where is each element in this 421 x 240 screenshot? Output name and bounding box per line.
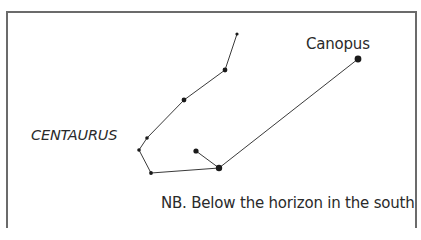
star-icon bbox=[223, 68, 228, 73]
star-icon bbox=[235, 32, 238, 35]
constellation-lines bbox=[139, 34, 358, 173]
star-icon bbox=[149, 171, 153, 175]
constellation-line bbox=[139, 150, 151, 173]
canopus-label: Canopus bbox=[306, 35, 370, 53]
constellation-line bbox=[147, 100, 184, 138]
constellation-line bbox=[151, 168, 219, 173]
star-icon bbox=[182, 98, 187, 103]
constellation-line bbox=[184, 70, 225, 100]
constellation-label: CENTAURUS bbox=[31, 127, 117, 143]
star-icon bbox=[137, 148, 141, 152]
constellation-line bbox=[219, 59, 358, 168]
horizon-note: NB. Below the horizon in the south bbox=[161, 194, 415, 212]
constellation-line bbox=[196, 151, 219, 168]
star-icon bbox=[216, 165, 222, 171]
canopus-star-icon bbox=[355, 56, 362, 63]
constellation-line bbox=[139, 138, 147, 150]
star-icon bbox=[145, 136, 149, 140]
constellation-line bbox=[225, 34, 237, 70]
star-markers bbox=[137, 32, 361, 175]
star-icon bbox=[193, 148, 198, 153]
